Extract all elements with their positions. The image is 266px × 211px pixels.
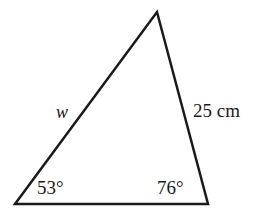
angle-label-left: 53° [37,178,64,197]
side-length-label-right: 25 cm [193,101,240,120]
side-variable-label-left: w [56,103,68,121]
triangle-shape [15,12,208,204]
angle-label-right: 76° [157,178,184,197]
triangle-figure: 53° 76° 25 cm w [0,0,266,211]
